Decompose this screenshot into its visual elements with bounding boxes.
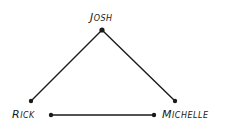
endpoint-dot <box>49 113 53 117</box>
endpoint-dot <box>173 99 177 103</box>
endpoint-dot <box>99 27 104 32</box>
endpoints-group <box>29 27 177 117</box>
edge-josh-rick <box>31 30 102 101</box>
endpoint-dot <box>29 99 33 103</box>
node-label-josh: Josh <box>90 12 113 23</box>
node-label-rick: Rick <box>12 109 35 120</box>
edge-josh-michelle <box>102 30 175 101</box>
endpoint-dot <box>152 113 156 117</box>
edges-group <box>31 30 175 115</box>
node-label-michelle: Michelle <box>162 109 208 120</box>
